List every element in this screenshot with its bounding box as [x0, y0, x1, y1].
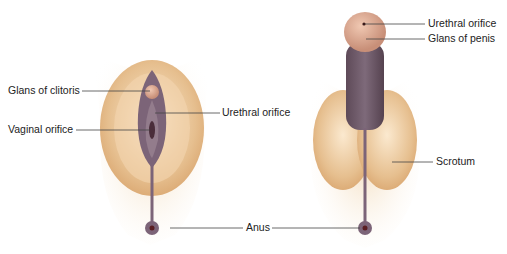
label-glans-of-clitoris: Glans of clitoris — [8, 84, 80, 96]
label-anus: Anus — [246, 221, 270, 233]
label-urethral-orifice-female: Urethral orifice — [222, 106, 290, 118]
label-scrotum: Scrotum — [436, 155, 475, 167]
label-vaginal-orifice: Vaginal orifice — [8, 123, 73, 135]
label-glans-of-penis: Glans of penis — [428, 32, 495, 44]
male-figure — [310, 12, 420, 248]
female-figure — [90, 48, 212, 245]
label-urethral-orifice-male: Urethral orifice — [428, 17, 496, 29]
